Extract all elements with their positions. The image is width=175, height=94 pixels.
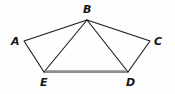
vertex-label-c: C (154, 35, 162, 48)
vertex-label-a: A (10, 35, 20, 48)
vertex-label-e: E (40, 76, 48, 89)
pentagon-diagram: A B C D E (0, 0, 175, 94)
geometry-figure-canvas: A B C D E (0, 0, 175, 94)
vertex-label-b: B (83, 3, 91, 16)
vertex-label-d: D (126, 76, 135, 89)
